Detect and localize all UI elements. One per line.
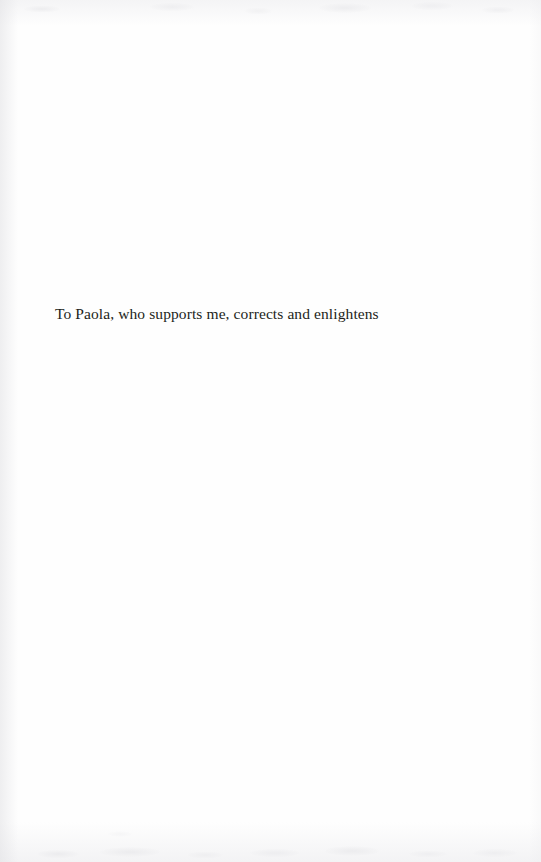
dedication-text: To Paola, who supports me, corrects and … [55, 304, 475, 323]
page-edge-shading [0, 0, 541, 862]
scan-artifact-top [0, 0, 541, 34]
scan-artifact-bottom [0, 810, 541, 862]
scanned-page: To Paola, who supports me, corrects and … [0, 0, 541, 862]
